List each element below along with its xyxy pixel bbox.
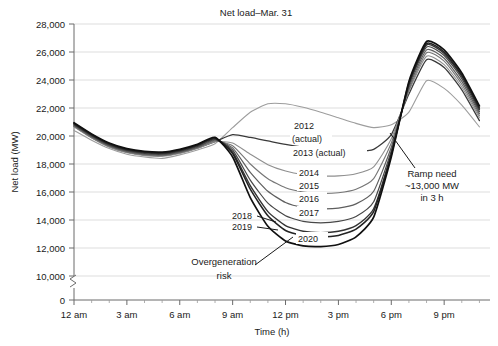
series-label-2017: 2017 bbox=[297, 206, 327, 218]
x-tick-label-3-pm: 3 pm bbox=[328, 309, 349, 320]
series-label-2018-text: 2018 bbox=[232, 211, 252, 221]
x-tick-label-6-pm: 6 pm bbox=[381, 309, 402, 320]
x-tick-label-6-am: 6 am bbox=[169, 309, 190, 320]
y-tick-label-10000: 10,000 bbox=[36, 271, 65, 282]
series-label-2014: 2014 bbox=[297, 166, 327, 178]
y-tick-label-28000: 28,000 bbox=[36, 19, 65, 30]
x-tick-label-9-pm: 9 pm bbox=[434, 309, 455, 320]
overgeneration-risk-line-1: Overgeneration bbox=[191, 256, 256, 267]
series-label-2015: 2015 bbox=[297, 179, 327, 191]
y-tick-label-22000: 22,000 bbox=[36, 103, 65, 114]
chart-figure: Net load–Mar. 31 010,00012,00014,00016,0… bbox=[0, 0, 498, 346]
series-label-2020-text: 2020 bbox=[298, 234, 318, 244]
series-label-2017-text: 2017 bbox=[299, 208, 319, 218]
series-label-2012-line2: (actual) bbox=[292, 134, 322, 144]
series-label-2013-text: 2013 (actual) bbox=[293, 148, 346, 158]
y-tick-label-16000: 16,000 bbox=[36, 187, 65, 198]
ramp-need-line-1: Ramp need bbox=[407, 168, 456, 179]
x-tick-label-3-am: 3 am bbox=[116, 309, 137, 320]
x-tick-label-12-pm: 12 pm bbox=[272, 309, 298, 320]
x-tick-label-12-am: 12 am bbox=[61, 309, 87, 320]
ramp-need-line-2: ~13,000 MW bbox=[405, 180, 459, 191]
y-tick-label-12000: 12,000 bbox=[36, 243, 65, 254]
series-label-2016-text: 2016 bbox=[299, 194, 319, 204]
y-tick-label-0: 0 bbox=[60, 295, 65, 306]
series-label-2019-text: 2019 bbox=[232, 222, 252, 232]
y-tick-label-20000: 20,000 bbox=[36, 131, 65, 142]
chart-title: Net load–Mar. 31 bbox=[220, 7, 292, 18]
duck-curve-chart: Net load–Mar. 31 010,00012,00014,00016,0… bbox=[0, 0, 498, 346]
y-axis-title: Net load (MW) bbox=[9, 131, 20, 192]
series-label-2016: 2016 bbox=[297, 192, 327, 204]
y-tick-label-14000: 14,000 bbox=[36, 215, 65, 226]
x-tick-label-9-am: 9 am bbox=[222, 309, 243, 320]
y-tick-label-24000: 24,000 bbox=[36, 75, 65, 86]
series-label-2020: 2020 bbox=[296, 232, 328, 244]
overgeneration-risk-line-2: risk bbox=[217, 270, 232, 281]
y-tick-label-26000: 26,000 bbox=[36, 47, 65, 58]
series-label-2012-line1: 2012 bbox=[294, 121, 314, 131]
x-axis-title: Time (h) bbox=[254, 326, 289, 337]
series-label-2013: 2013 (actual) bbox=[291, 146, 367, 158]
series-label-2014-text: 2014 bbox=[299, 168, 319, 178]
y-tick-label-18000: 18,000 bbox=[36, 159, 65, 170]
series-label-2015-text: 2015 bbox=[299, 181, 319, 191]
ramp-need-line-3: in 3 h bbox=[420, 192, 443, 203]
